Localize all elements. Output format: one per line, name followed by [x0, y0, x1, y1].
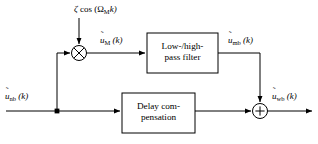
output-signal-label: ˜uwb (k)	[272, 92, 297, 101]
delay-label-line-2: pensation	[122, 112, 195, 123]
block-diagram-figure: ζ cos (ΩMk) ˜unb (k) ˜uM (k) ˜umb (k) ˜u…	[0, 0, 318, 144]
delay-label-line-1: Delay com-	[122, 101, 195, 112]
filtered-signal-label: ˜umb (k)	[228, 36, 253, 45]
filter-label-line-1: Low-/high-	[147, 41, 218, 52]
filter-label-line-2: pass filter	[147, 52, 218, 63]
delay-block-label: Delay com- pensation	[122, 101, 195, 123]
filter-block-label: Low-/high- pass filter	[147, 41, 218, 63]
input-signal-label: ˜unb (k)	[5, 92, 28, 101]
modulated-signal-label: ˜uM (k)	[100, 36, 123, 45]
modulator-signal-label: ζ cos (ΩMk)	[74, 5, 117, 14]
